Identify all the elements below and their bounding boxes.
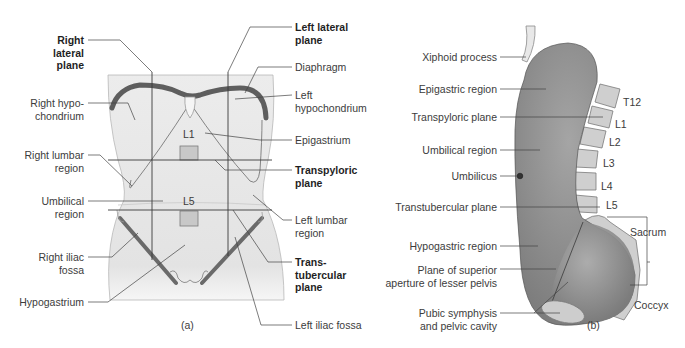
label-right-hypochondrium: Right hypo- chondrium [10,97,84,122]
caption-a: (a) [181,319,194,332]
label-t12: T12 [623,96,641,109]
label-xiphoid-process: Xiphoid process [380,51,497,64]
label-right-iliac-fossa: Right iliac fossa [10,251,84,276]
label-left-lateral-plane: Left lateral plane [295,21,348,46]
label-transpyloric-plane: Transpyloric plane [295,164,357,189]
label-umbilical-region: Umbilical region [10,195,84,220]
label-l1-b: L1 [615,118,627,131]
label-epigastrium: Epigastrium [295,134,350,147]
label-pubic-symphysis: Pubic symphysis and pelvic cavity [380,307,497,332]
label-l4-b: L4 [601,180,613,193]
label-l5-b: L5 [606,199,618,212]
label-right-lumbar-region: Right lumbar region [4,149,84,174]
panel-b-sagittal [515,26,640,327]
label-umbilical-region-b: Umbilical region [380,144,497,157]
caption-b: (b) [587,319,600,332]
l1-vertebra-marker [180,146,198,160]
label-l2-b: L2 [609,136,621,149]
label-l3-b: L3 [603,157,615,170]
label-epigastric-region: Epigastric region [380,83,497,96]
label-hypogastrium: Hypogastrium [4,296,84,309]
label-umbilicus: Umbilicus [380,170,497,183]
l5-vertebra-marker [180,211,198,226]
label-l5: L5 [183,195,195,208]
label-sacrum: Sacrum [630,226,666,239]
label-l1: L1 [183,128,195,141]
label-transpyloric-plane-b: Transpyloric plane [380,111,497,124]
label-left-lumbar-region: Left lumbar region [295,214,348,239]
label-left-hypochondrium: Left hypochondrium [295,89,367,114]
label-coccyx: Coccyx [634,299,668,312]
label-plane-superior-aperture: Plane of superior aperture of lesser pel… [370,264,497,289]
label-left-iliac-fossa: Left iliac fossa [295,319,362,332]
label-transtubercular-plane-b: Transtubercular plane [370,201,497,214]
label-transtubercular-plane: Trans- tubercular plane [295,256,346,294]
label-right-lateral-plane: Right lateral plane [38,34,84,72]
label-diaphragm: Diaphragm [295,61,346,74]
panel-a-torso [108,72,284,300]
label-hypogastric-region: Hypogastric region [380,240,497,253]
